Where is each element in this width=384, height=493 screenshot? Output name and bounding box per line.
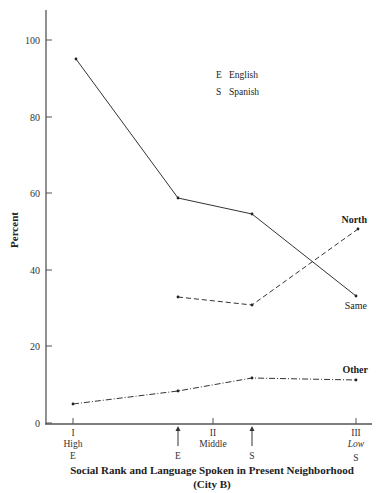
arrow-e-label: E [175, 451, 181, 461]
series-label-same: Same [345, 300, 368, 311]
cat-1-lang: E [70, 451, 76, 461]
arrow-s-icon [250, 426, 255, 446]
cat-2-rank: Middle [199, 439, 226, 449]
y-tick-80: 80 [30, 112, 40, 123]
series-other-points [72, 377, 358, 406]
cat-1-roman: I [71, 428, 74, 438]
legend-s-text: Spanish [229, 87, 259, 97]
y-axis-label: Percent [8, 212, 20, 248]
cat-3-roman: III [351, 428, 361, 438]
x-axis-label: Social Rank and Language Spoken in Prese… [70, 464, 354, 476]
series-north-points [177, 228, 360, 307]
x-axis-sublabel: (City B) [193, 478, 231, 491]
y-tick-60: 60 [30, 188, 40, 199]
chart: 0 20 40 60 80 100 Percent I High E E II … [0, 0, 384, 493]
legend-e-code: E [216, 70, 222, 80]
series-north-line [178, 229, 358, 305]
cat-1-rank: High [64, 439, 83, 449]
y-ticks [46, 40, 52, 423]
series-other-line [73, 378, 356, 404]
cat-3-rank: Low [347, 439, 365, 449]
arrow-e-icon [176, 426, 181, 446]
series-label-other: Other [342, 364, 368, 375]
y-tick-20: 20 [30, 341, 40, 352]
y-tick-0: 0 [35, 418, 40, 429]
y-tick-40: 40 [30, 265, 40, 276]
arrow-s-label: S [249, 451, 254, 461]
legend-e-text: English [229, 70, 258, 80]
cat-2-roman: II [210, 428, 216, 438]
legend-s-code: S [216, 87, 221, 97]
y-tick-100: 100 [25, 35, 40, 46]
cat-3-lang: S [353, 453, 358, 463]
series-label-north: North [341, 214, 367, 225]
x-ticks [73, 418, 356, 424]
